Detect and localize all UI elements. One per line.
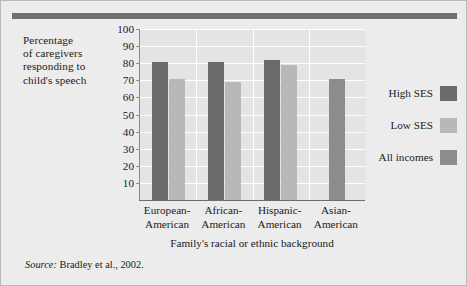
figure-container: Percentage of caregivers responding to c… [0,0,467,286]
y-axis-tick-mark [136,149,140,150]
y-axis-tick-label: 60 [123,91,134,103]
x-axis-category-label-line: American [308,218,364,232]
y-axis-title-line: Percentage [23,34,109,47]
gridline-vertical [253,29,254,200]
y-axis-title-line: responding to [23,60,109,73]
x-axis-category-label-line: Asian- [308,204,364,218]
y-axis-tick-mark [136,183,140,184]
y-axis-tick-label: 40 [123,126,134,138]
x-axis-category-label: Asian-American [308,204,364,231]
x-axis-category-label-line: African- [195,204,251,218]
y-axis-tick-label: 90 [123,40,134,52]
source-prefix: Source: [25,259,57,270]
y-axis-tick-mark [136,29,140,30]
chart-legend: High SESLow SESAll incomes [367,81,457,177]
y-axis-tick-mark [136,97,140,98]
x-axis-category-labels: European-AmericanAfrican-AmericanHispani… [139,204,364,236]
legend-item: High SES [367,81,457,105]
y-axis-title-line: child's speech [23,74,109,87]
bar [152,62,168,201]
x-axis-category-label-line: Hispanic- [252,204,308,218]
gridline-vertical [309,29,310,200]
y-axis-tick-label: 50 [123,109,134,121]
y-axis-tick-labels: 102030405060708090100 [112,29,134,207]
y-axis-title: Percentage of caregivers responding to c… [23,34,109,87]
plot-area [139,29,365,200]
y-axis-tick-label: 80 [123,57,134,69]
legend-item-label: High SES [389,87,433,99]
bar [264,60,280,200]
legend-color-swatch [440,118,457,133]
x-axis-category-label: European-American [139,204,195,231]
y-axis-tick-mark [136,46,140,47]
x-axis-category-label-line: European- [139,204,195,218]
y-axis-tick-label: 30 [123,143,134,155]
source-citation: Bradley et al., 2002. [60,259,144,270]
y-axis-tick-label: 70 [123,74,134,86]
y-axis-tick-mark [136,115,140,116]
legend-item: All incomes [367,145,457,169]
bar [281,65,297,200]
y-axis-tick-label: 100 [117,23,134,35]
legend-item-label: Low SES [390,119,433,131]
bar [169,79,185,200]
y-axis-tick-mark [136,166,140,167]
y-axis-tick-label: 10 [123,177,134,189]
y-axis-tick-mark [136,63,140,64]
y-axis-tick-mark [136,132,140,133]
y-axis-title-line: of caregivers [23,47,109,60]
y-axis-tick-mark [136,80,140,81]
legend-color-swatch [440,86,457,101]
top-accent-bar [12,13,457,19]
legend-item: Low SES [367,113,457,137]
x-axis-title: Family's racial or ethnic background [112,237,392,249]
x-axis-category-label-line: American [139,218,195,232]
gridline-vertical [196,29,197,200]
bar [329,79,345,200]
legend-color-swatch [440,150,457,165]
x-axis-category-label: Hispanic-American [252,204,308,231]
plot-wrapper: 102030405060708090100 [112,29,364,207]
bar [225,82,241,200]
y-axis-tick-label: 20 [123,160,134,172]
x-axis-line [139,200,365,201]
x-axis-category-label: African-American [195,204,251,231]
source-note: Source: Bradley et al., 2002. [25,259,144,270]
legend-item-label: All incomes [379,151,433,163]
x-axis-category-label-line: American [252,218,308,232]
x-axis-category-label-line: American [195,218,251,232]
bar [208,62,224,201]
